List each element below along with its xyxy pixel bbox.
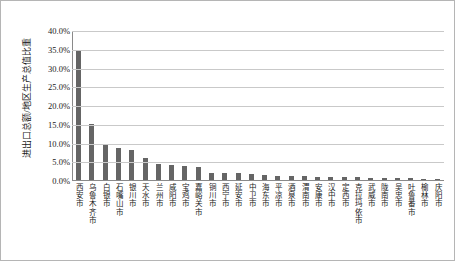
bar — [435, 179, 440, 180]
bar — [143, 158, 148, 180]
gridline — [72, 162, 444, 163]
y-axis-tick-label: 10.0% — [28, 140, 70, 148]
y-axis-tick-label: 0.0% — [28, 177, 70, 185]
x-axis-tick-label: 白银市 — [101, 183, 109, 208]
x-label-slot: 宝鸡市 — [178, 183, 191, 261]
x-axis-tick-label: 宝鸡市 — [181, 183, 189, 208]
x-axis-tick-label: 陇南市 — [380, 183, 388, 208]
x-axis-tick-label: 酒泉市 — [287, 183, 295, 208]
bar — [249, 174, 254, 180]
x-label-slot: 西宁市 — [218, 183, 231, 261]
x-label-slot: 银川市 — [125, 183, 138, 261]
x-axis-tick-label: 乌鲁木齐市 — [88, 183, 96, 224]
x-axis-tick-label: 西安市 — [75, 183, 83, 208]
bar — [169, 165, 174, 180]
x-axis-tick-label: 天水市 — [141, 183, 149, 208]
x-label-slot: 白银市 — [99, 183, 112, 261]
x-label-slot: 榆林市 — [417, 183, 430, 261]
x-axis-tick-label: 银川市 — [128, 183, 136, 208]
bar — [196, 167, 201, 180]
x-label-slot: 嘉峪关市 — [192, 183, 205, 261]
gridline — [72, 50, 444, 51]
x-axis-tick-label: 安康市 — [314, 183, 322, 208]
bar — [222, 173, 227, 180]
bar — [328, 177, 333, 180]
gridline — [72, 125, 444, 126]
x-label-slot: 乌鲁木齐市 — [85, 183, 98, 261]
bar — [182, 166, 187, 180]
x-label-slot: 铜川市 — [205, 183, 218, 261]
x-label-slot: 石嘴山市 — [112, 183, 125, 261]
bar — [156, 164, 161, 180]
x-axis-tick-label: 咸阳市 — [168, 183, 176, 208]
y-axis-tick-label: 20.0% — [28, 102, 70, 110]
x-axis-tick-label: 榆林市 — [420, 183, 428, 208]
x-label-slot: 咸阳市 — [165, 183, 178, 261]
x-axis-tick-label: 兰州市 — [155, 183, 163, 208]
x-label-slot: 延安市 — [231, 183, 244, 261]
bar — [382, 178, 387, 180]
x-axis-tick-label: 铜川市 — [208, 183, 216, 208]
x-axis-tick-label: 克拉玛依市 — [354, 183, 362, 224]
plot-area — [72, 31, 444, 181]
y-axis-tick-labels: 40.0%35.0%30.0%25.0%20.0%15.0%10.0%5.0%0… — [28, 24, 70, 188]
x-axis-tick-labels: 西安市乌鲁木齐市白银市石嘴山市银川市天水市兰州市咸阳市宝鸡市嘉峪关市铜川市西宁市… — [72, 183, 444, 261]
x-axis-tick-label: 延安市 — [234, 183, 242, 208]
x-label-slot: 定西市 — [338, 183, 351, 261]
bar — [275, 176, 280, 180]
bar — [76, 50, 81, 180]
x-label-slot: 汉中市 — [324, 183, 337, 261]
gridline — [72, 69, 444, 70]
bar — [368, 178, 373, 180]
x-axis-tick-label: 武威市 — [367, 183, 375, 208]
x-label-slot: 克拉玛依市 — [351, 183, 364, 261]
y-axis-tick-label: 40.0% — [28, 27, 70, 35]
y-axis-tick-label: 35.0% — [28, 46, 70, 54]
bar — [116, 148, 121, 180]
gridline — [72, 87, 444, 88]
y-axis-tick-label: 15.0% — [28, 121, 70, 129]
x-axis-tick-label: 石嘴山市 — [115, 183, 123, 216]
x-label-slot: 庆阳市 — [431, 183, 444, 261]
x-label-slot: 天水市 — [138, 183, 151, 261]
gridline — [72, 144, 444, 145]
bar — [315, 177, 320, 180]
x-label-slot: 西安市 — [72, 183, 85, 261]
gridline — [72, 31, 444, 32]
bar — [355, 177, 360, 180]
x-axis-tick-label: 庆阳市 — [433, 183, 441, 208]
x-label-slot: 酒泉市 — [285, 183, 298, 261]
bar — [395, 178, 400, 180]
x-axis-tick-label: 平凉市 — [274, 183, 282, 208]
x-axis-tick-label: 吴忠市 — [394, 183, 402, 208]
y-axis-tick-label: 5.0% — [28, 158, 70, 166]
x-label-slot: 吴忠市 — [391, 183, 404, 261]
x-label-slot: 渭南市 — [298, 183, 311, 261]
gridline — [72, 106, 444, 107]
bar — [209, 173, 214, 180]
bar — [262, 175, 267, 180]
bar — [89, 124, 94, 180]
bar — [421, 179, 426, 180]
x-axis-tick-label: 定西市 — [340, 183, 348, 208]
bar — [342, 177, 347, 180]
y-axis-tick-label: 30.0% — [28, 65, 70, 73]
x-axis-tick-label: 中卫市 — [248, 183, 256, 208]
y-axis-tick-label: 25.0% — [28, 83, 70, 91]
x-axis-tick-label: 海东市 — [261, 183, 269, 208]
x-label-slot: 安康市 — [311, 183, 324, 261]
bar — [129, 150, 134, 180]
x-label-slot: 武威市 — [364, 183, 377, 261]
x-axis-tick-label: 西宁市 — [221, 183, 229, 208]
x-axis-tick-label: 嘉峪关市 — [194, 183, 202, 216]
x-label-slot: 海东市 — [258, 183, 271, 261]
x-axis-line — [72, 180, 444, 181]
bar — [289, 176, 294, 180]
x-axis-tick-label: 吐鲁番市 — [407, 183, 415, 216]
x-axis-tick-label: 渭南市 — [301, 183, 309, 208]
x-label-slot: 吐鲁番市 — [404, 183, 417, 261]
x-label-slot: 兰州市 — [152, 183, 165, 261]
x-axis-tick-label: 汉中市 — [327, 183, 335, 208]
x-label-slot: 陇南市 — [377, 183, 390, 261]
x-label-slot: 平凉市 — [271, 183, 284, 261]
